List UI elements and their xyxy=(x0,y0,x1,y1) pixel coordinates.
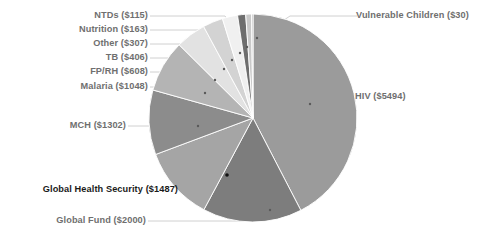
marker-fprh xyxy=(214,79,216,81)
slice-label-global-health-security-text: Global Health Security ($1487) xyxy=(43,184,178,194)
marker-vulnerable-children xyxy=(256,37,258,39)
slice-label-malaria[interactable]: Malaria ($1048) xyxy=(0,81,148,92)
slice-label-nutrition[interactable]: Nutrition ($163) xyxy=(0,24,148,35)
marker-ntds xyxy=(246,46,248,48)
marker-hiv xyxy=(309,103,311,105)
slice-label-vulnerable-children-text: Vulnerable Children ($30) xyxy=(356,10,469,20)
slice-label-other[interactable]: Other ($307) xyxy=(0,38,148,49)
marker-nutrition xyxy=(239,52,241,54)
slice-label-nutrition-text: Nutrition ($163) xyxy=(79,24,148,34)
marker-malaria xyxy=(204,92,206,94)
pie-slices xyxy=(149,14,357,222)
pie-chart: NTDs ($115) Nutrition ($163) Other ($307… xyxy=(0,0,479,241)
marker-ghs xyxy=(225,173,229,177)
slice-label-tb-text: TB ($406) xyxy=(106,52,148,62)
slice-label-mch[interactable]: MCH ($1302) xyxy=(0,120,126,131)
marker-other xyxy=(231,59,233,61)
slice-label-global-fund[interactable]: Global Fund ($2000) xyxy=(0,215,146,226)
marker-tb xyxy=(223,68,225,70)
slice-label-ntds[interactable]: NTDs ($115) xyxy=(0,10,148,21)
slice-label-ntds-text: NTDs ($115) xyxy=(94,10,148,20)
marker-mch xyxy=(197,125,199,127)
slice-label-vulnerable-children[interactable]: Vulnerable Children ($30) xyxy=(356,10,469,21)
slice-label-global-health-security[interactable]: Global Health Security ($1487) xyxy=(0,184,178,195)
slice-label-global-fund-text: Global Fund ($2000) xyxy=(56,215,146,225)
slice-label-hiv[interactable]: HIV ($5494) xyxy=(355,91,406,102)
slice-label-malaria-text: Malaria ($1048) xyxy=(81,81,148,91)
slice-label-tb[interactable]: TB ($406) xyxy=(0,52,148,63)
slice-label-fprh-text: FP/RH ($608) xyxy=(90,66,148,76)
slice-label-mch-text: MCH ($1302) xyxy=(70,120,126,130)
slice-label-other-text: Other ($307) xyxy=(93,38,148,48)
marker-global-fund xyxy=(269,209,271,211)
slice-label-hiv-text: HIV ($5494) xyxy=(355,91,406,101)
slice-label-fprh[interactable]: FP/RH ($608) xyxy=(0,66,148,77)
